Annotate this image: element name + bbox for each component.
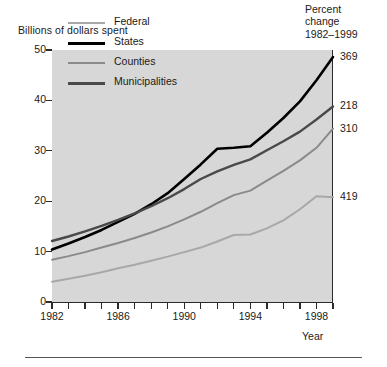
- percent-change-federal: 419: [340, 190, 358, 202]
- legend-label-federal: Federal: [114, 15, 150, 27]
- x-tick-label-1998: 1998: [305, 310, 328, 322]
- x-tick-1996: [283, 303, 284, 309]
- figure-chart: Billions of dollars spent Percent change…: [0, 0, 387, 367]
- x-tick-1989: [167, 303, 168, 309]
- x-tick-1997: [299, 303, 300, 309]
- y-tick-40: [46, 100, 52, 101]
- legend-label-counties: Counties: [114, 55, 155, 67]
- x-tick-1999: [332, 303, 333, 309]
- legend-swatch-municipalities: [68, 82, 105, 85]
- legend-swatch-states: [68, 42, 105, 45]
- x-tick-1993: [233, 303, 234, 309]
- legend-swatch-counties: [68, 62, 105, 64]
- y-tick-label-30: 30: [34, 144, 46, 156]
- y-axis-title: Billions of dollars spent: [18, 24, 128, 36]
- x-tick-1986: [117, 303, 118, 309]
- x-tick-1987: [134, 303, 135, 309]
- x-tick-label-1982: 1982: [40, 310, 63, 322]
- series-line-counties: [52, 129, 333, 260]
- plot-area: [52, 50, 333, 302]
- y-tick-label-0: 0: [40, 295, 46, 307]
- footer-rule: [25, 357, 362, 358]
- x-tick-label-1994: 1994: [239, 310, 262, 322]
- x-tick-1994: [250, 303, 251, 309]
- y-tick-20: [46, 201, 52, 202]
- percent-change-header-line3: 1982–1999: [305, 28, 358, 40]
- y-tick-30: [46, 150, 52, 151]
- x-tick-label-1990: 1990: [173, 310, 196, 322]
- x-tick-label-1986: 1986: [106, 310, 129, 322]
- y-tick-10: [46, 251, 52, 252]
- percent-change-states: 369: [340, 50, 358, 62]
- percent-change-municipalities: 218: [340, 99, 358, 111]
- percent-change-header: Percent change 1982–1999: [305, 3, 358, 40]
- x-tick-1991: [200, 303, 201, 309]
- legend-swatch-federal: [68, 22, 105, 24]
- y-tick-label-20: 20: [34, 194, 46, 206]
- x-tick-1983: [68, 303, 69, 309]
- y-tick-label-10: 10: [34, 245, 46, 257]
- percent-change-header-line2: change: [305, 15, 358, 27]
- x-tick-1984: [84, 303, 85, 309]
- legend-label-municipalities: Municipalities: [114, 75, 177, 87]
- x-tick-1995: [266, 303, 267, 309]
- x-tick-1990: [184, 303, 185, 309]
- percent-change-counties: 310: [340, 122, 358, 134]
- x-tick-1992: [217, 303, 218, 309]
- series-line-states: [52, 57, 333, 250]
- x-tick-1988: [151, 303, 152, 309]
- legend-label-states: States: [114, 35, 144, 47]
- y-tick-50: [46, 49, 52, 50]
- y-tick-label-40: 40: [34, 93, 46, 105]
- x-tick-1985: [101, 303, 102, 309]
- x-tick-1982: [51, 303, 52, 309]
- data-lines: [52, 50, 333, 302]
- x-axis-line: [52, 302, 333, 303]
- x-axis-title: Year: [302, 330, 323, 342]
- y-tick-label-50: 50: [34, 43, 46, 55]
- series-line-municipalities: [52, 106, 333, 241]
- series-line-federal: [52, 196, 333, 282]
- x-tick-1998: [316, 303, 317, 309]
- percent-change-header-line1: Percent: [305, 3, 358, 15]
